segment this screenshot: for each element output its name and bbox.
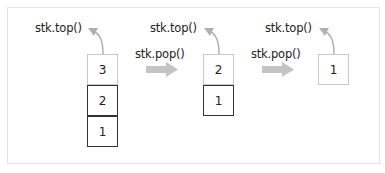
- stack-cell: 2: [87, 85, 118, 116]
- pop-label: stk.pop(): [251, 47, 301, 61]
- stack-cell: 2: [203, 54, 234, 85]
- stack-cell: 1: [203, 85, 234, 116]
- stack-cell: 1: [87, 116, 118, 147]
- pop-arrow-icon: [262, 62, 294, 77]
- curved-arrow-icon: [323, 30, 334, 54]
- top-label: stk.top(): [150, 21, 197, 35]
- stack-cell: 3: [87, 54, 118, 85]
- pop-arrow-icon: [146, 62, 178, 77]
- curved-arrow-icon: [208, 30, 219, 54]
- pop-label: stk.pop(): [135, 47, 185, 61]
- top-label: stk.top(): [35, 21, 82, 35]
- top-label: stk.top(): [265, 21, 312, 35]
- stack-cell: 1: [318, 54, 349, 85]
- curved-arrow-icon: [92, 30, 103, 54]
